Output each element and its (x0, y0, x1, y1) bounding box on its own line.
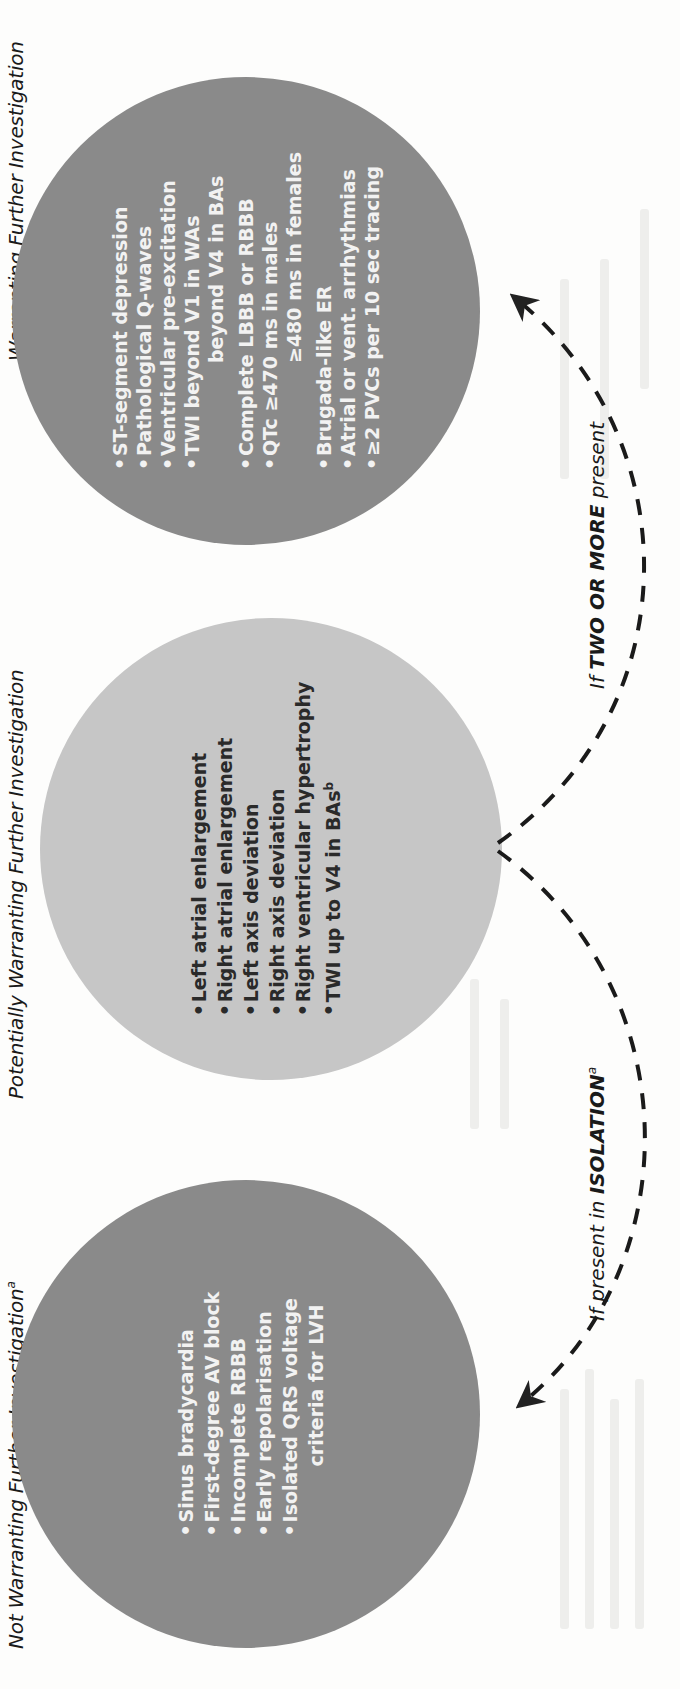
label-isolation: If present in ISOLATIONa (585, 1067, 609, 1321)
label-two-or-more: If TWO OR MORE present (585, 422, 609, 689)
arrow-two-or-more (498, 297, 644, 843)
flow-arrows (0, 0, 680, 1689)
arrow-isolation (498, 851, 645, 1405)
ecg-findings-diagram: Not Warranting Further Investigationa Po… (0, 0, 680, 1689)
